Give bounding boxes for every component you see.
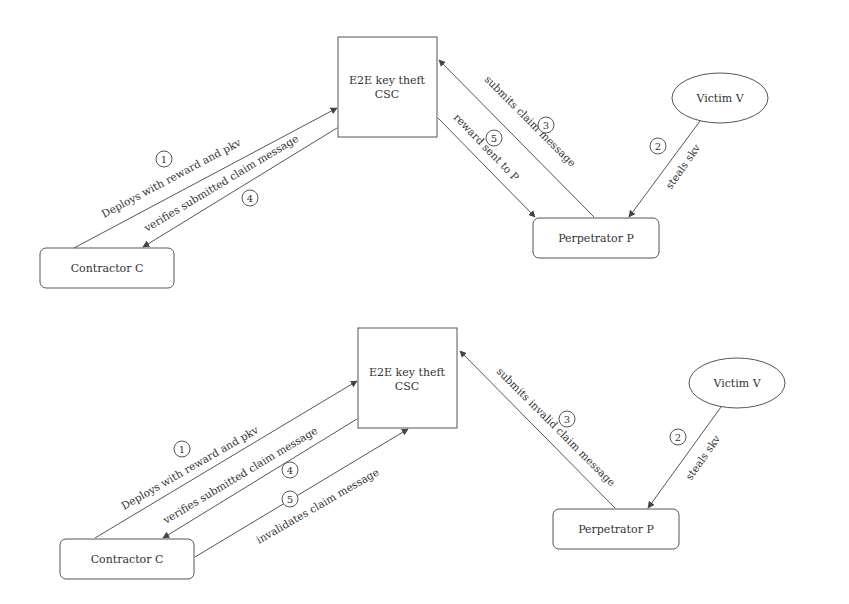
perpetrator-node: Perpetrator P [553,509,679,549]
victim-node: Victim V [672,73,768,123]
csc-node: E2E key theft CSC [358,328,457,428]
step-5-badge: 5 [486,130,502,146]
edge-3-line [460,351,615,508]
edge-2-line [629,121,700,217]
svg-text:1: 1 [161,154,167,165]
step-4-badge: 4 [242,190,258,206]
step-2-badge: 2 [650,138,666,154]
csc-label-line1: E2E key theft [369,366,446,379]
edge-4-line [163,419,357,538]
edge-5-line [438,118,535,217]
bottom-diagram: E2E key theft CSC Contractor C Perpetrat… [60,328,785,579]
edge-5-label: invalidates claim message [254,466,381,546]
victim-label: Victim V [695,92,744,105]
svg-text:4: 4 [287,465,293,476]
csc-label-line2: CSC [375,88,399,101]
top-diagram: E2E key theft CSC Contractor C Perpetrat… [40,37,768,288]
step-5-badge: 5 [282,491,298,507]
edge-3-line [439,60,594,217]
diagram-canvas: E2E key theft CSC Contractor C Perpetrat… [0,0,849,604]
edge-2-label: steals skv [663,142,703,191]
step-1-badge: 1 [174,441,190,457]
step-2-badge: 2 [670,429,686,445]
step-1-badge: 1 [156,151,172,167]
perpetrator-label: Perpetrator P [578,523,654,536]
step-3-badge: 3 [559,411,575,427]
edge-1-line [95,381,357,538]
contractor-node: Contractor C [40,248,174,288]
svg-text:2: 2 [675,432,681,443]
svg-text:3: 3 [543,120,549,131]
victim-label: Victim V [712,377,761,390]
edge-2-line [648,407,721,508]
svg-text:5: 5 [491,133,497,144]
edge-1-line [74,108,337,248]
csc-label-line2: CSC [395,380,419,393]
svg-text:3: 3 [564,414,570,425]
csc-label-line1: E2E key theft [349,74,426,87]
perpetrator-node: Perpetrator P [533,218,659,258]
victim-node: Victim V [689,358,785,408]
step-4-badge: 4 [282,462,298,478]
svg-text:2: 2 [655,141,661,152]
edge-5-label: reward sent to P [452,111,522,183]
perpetrator-label: Perpetrator P [558,232,634,245]
edge-3-label: submits invalid claim message [495,365,618,488]
svg-text:1: 1 [179,444,185,455]
edge-2-label: steals skv [683,433,723,482]
contractor-node: Contractor C [60,539,194,579]
svg-text:4: 4 [247,193,253,204]
step-3-badge: 3 [538,117,554,133]
svg-text:5: 5 [287,494,293,505]
contractor-label: Contractor C [71,262,144,275]
csc-node: E2E key theft CSC [338,37,437,137]
contractor-label: Contractor C [91,553,164,566]
